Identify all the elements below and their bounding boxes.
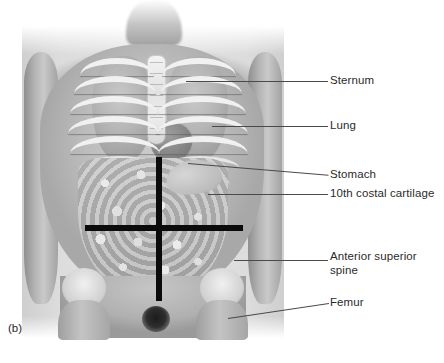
label-femur: Femur [330, 296, 364, 310]
label-sternum: Sternum [330, 74, 374, 88]
quadrant-horizontal-line [85, 225, 243, 231]
label-anterior-superior-spine: Anterior superior spine [330, 250, 417, 277]
leader-line-costal-cartilage [208, 194, 328, 195]
label-costal-cartilage: 10th costal cartilage [330, 187, 434, 201]
leader-line-lung [212, 126, 328, 127]
groin-shadow [142, 306, 170, 332]
anatomy-figure: Sternum Lung Stomach 10th costal cartila… [0, 0, 444, 363]
leader-line-anterior-superior-spine [234, 260, 328, 261]
figure-caption: (b) [8, 322, 22, 334]
left-thigh [58, 300, 110, 340]
label-stomach: Stomach [330, 168, 376, 182]
leader-line-sternum [186, 81, 328, 82]
right-thigh [196, 300, 248, 340]
label-lung: Lung [330, 119, 356, 133]
